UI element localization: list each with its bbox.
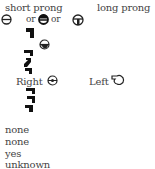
value-2: none: [5, 136, 29, 147]
circle-filled-top-icon: [38, 14, 49, 25]
block-glyph-icon: [26, 28, 34, 38]
right-label: Right: [16, 76, 43, 87]
block-glyph-icon: [24, 50, 33, 74]
or-text-2: or: [51, 14, 60, 25]
block-glyph-icon: [25, 88, 35, 112]
value-1: none: [5, 124, 29, 135]
value-4: unknown: [5, 159, 50, 169]
left-label: Left: [89, 76, 108, 87]
header-long-prong: long prong: [97, 2, 150, 13]
circle-bar-icon: [1, 14, 12, 25]
or-text-1: or: [26, 14, 35, 25]
pointing-hand-icon: [111, 74, 125, 85]
header-short-prong: short prong: [5, 2, 62, 13]
circle-dot-icon: [47, 75, 58, 86]
circle-half-filled-icon: [39, 39, 50, 50]
circle-t-icon: [72, 14, 84, 26]
value-3: yes: [5, 148, 21, 159]
